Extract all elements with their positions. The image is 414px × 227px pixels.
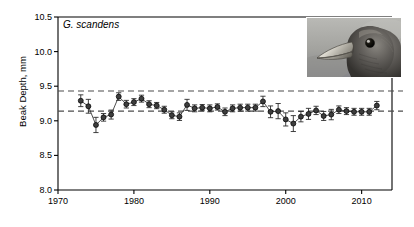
data-point [253, 105, 258, 110]
data-point [207, 106, 212, 111]
data-point [238, 105, 243, 110]
data-point [109, 112, 114, 117]
data-point [86, 104, 91, 109]
data-point [177, 114, 182, 119]
data-point [367, 109, 372, 114]
data-point [321, 113, 326, 118]
data-point [314, 108, 319, 113]
data-point [131, 100, 136, 105]
data-point [283, 117, 288, 122]
data-point [298, 114, 303, 119]
data-point [268, 109, 273, 114]
data-point [78, 98, 83, 103]
data-point [101, 115, 106, 120]
data-point [352, 109, 357, 114]
beak-depth-chart-figure: Beak Depth, mm 8.08.59.09.510.010.5 1970… [0, 0, 414, 227]
data-point [93, 122, 98, 127]
finch-head-illustration [307, 18, 401, 77]
data-point [359, 109, 364, 114]
data-point [154, 103, 159, 108]
data-point [116, 94, 121, 99]
data-point [230, 106, 235, 111]
data-point [192, 106, 197, 111]
data-point [374, 103, 379, 108]
data-point [147, 102, 152, 107]
data-point [223, 109, 228, 114]
data-point [245, 105, 250, 110]
data-point [276, 109, 281, 114]
data-point [329, 112, 334, 117]
data-point [139, 96, 144, 101]
finch-head-photograph [306, 17, 402, 78]
data-point [124, 102, 129, 107]
data-point [306, 111, 311, 116]
data-point [260, 99, 265, 104]
data-point [185, 102, 190, 107]
data-point [169, 113, 174, 118]
data-point [215, 104, 220, 109]
data-point [162, 107, 167, 112]
data-point [200, 105, 205, 110]
data-point [291, 121, 296, 126]
data-point [336, 107, 341, 112]
data-point [344, 109, 349, 114]
